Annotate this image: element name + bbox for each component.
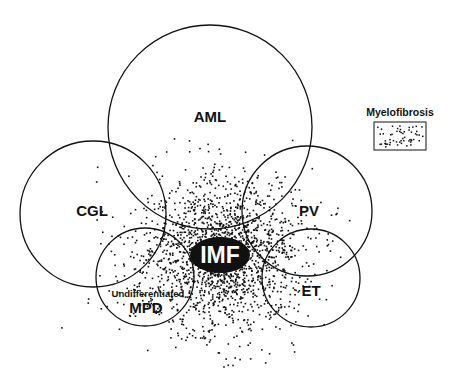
circle-aml xyxy=(108,25,312,229)
scatter-dot xyxy=(286,254,288,256)
scatter-dot xyxy=(252,253,254,255)
scatter-dot xyxy=(259,314,261,316)
scatter-dot xyxy=(219,301,221,303)
scatter-dot xyxy=(280,304,282,306)
scatter-dot xyxy=(205,209,207,211)
scatter-dot xyxy=(277,291,279,293)
scatter-dot xyxy=(219,169,221,171)
scatter-dot xyxy=(163,238,165,240)
legend-dot xyxy=(393,140,395,142)
scatter-dot xyxy=(167,280,169,282)
scatter-dot xyxy=(202,337,204,339)
scatter-dot xyxy=(195,186,197,188)
scatter-dot xyxy=(281,227,283,229)
scatter-dot xyxy=(210,274,212,276)
scatter-dot xyxy=(211,234,213,236)
scatter-dot xyxy=(264,303,266,305)
scatter-dot xyxy=(212,203,214,205)
scatter-dot xyxy=(290,325,292,327)
scatter-dot xyxy=(234,192,236,194)
scatter-dot xyxy=(238,181,240,183)
scatter-dot xyxy=(255,220,257,222)
scatter-dot xyxy=(228,343,230,345)
scatter-dot xyxy=(254,238,256,240)
scatter-dot xyxy=(183,219,185,221)
legend-dot xyxy=(387,144,389,146)
scatter-dot xyxy=(260,220,262,222)
legend-dot xyxy=(408,140,410,142)
scatter-dot xyxy=(284,176,286,178)
scatter-dot xyxy=(186,264,188,266)
scatter-dot xyxy=(231,230,233,232)
scatter-dot xyxy=(223,210,225,212)
scatter-dot xyxy=(212,287,214,289)
scatter-dot xyxy=(146,217,148,219)
scatter-dot xyxy=(143,262,145,264)
scatter-dot xyxy=(252,293,254,295)
scatter-dot xyxy=(259,267,261,269)
scatter-dot xyxy=(232,297,234,299)
scatter-dot xyxy=(326,299,328,301)
scatter-dot xyxy=(211,277,213,279)
scatter-dot xyxy=(142,271,144,273)
scatter-dot xyxy=(307,237,309,239)
scatter-dot xyxy=(217,280,219,282)
legend-dot xyxy=(415,133,417,135)
scatter-dot xyxy=(257,304,259,306)
scatter-dot xyxy=(240,269,242,271)
scatter-dot xyxy=(266,246,268,248)
scatter-dot xyxy=(235,185,237,187)
scatter-dot xyxy=(240,240,242,242)
scatter-dot xyxy=(209,192,211,194)
scatter-dot xyxy=(215,275,217,277)
scatter-dot xyxy=(298,250,300,252)
scatter-dot xyxy=(229,167,231,169)
scatter-dot xyxy=(214,221,216,223)
scatter-dot xyxy=(169,262,171,264)
scatter-dot xyxy=(233,200,235,202)
scatter-dot xyxy=(214,234,216,236)
scatter-dot xyxy=(222,232,224,234)
scatter-dot xyxy=(204,236,206,238)
scatter-dot xyxy=(136,240,138,242)
scatter-dot xyxy=(241,289,243,291)
scatter-dot xyxy=(281,195,283,197)
scatter-dot xyxy=(171,308,173,310)
legend-dot xyxy=(400,129,402,131)
scatter-dot xyxy=(150,255,152,257)
scatter-dot xyxy=(253,321,255,323)
scatter-dot xyxy=(191,230,193,232)
scatter-dot xyxy=(332,240,334,242)
scatter-dot xyxy=(218,230,220,232)
scatter-dot xyxy=(212,227,214,229)
scatter-dot xyxy=(267,264,269,266)
scatter-dot xyxy=(276,177,278,179)
scatter-dot xyxy=(294,294,296,296)
scatter-dot xyxy=(184,282,186,284)
scatter-dot xyxy=(230,274,232,276)
scatter-dot xyxy=(240,208,242,210)
scatter-dot xyxy=(266,250,268,252)
scatter-dot xyxy=(187,337,189,339)
scatter-dot xyxy=(187,279,189,281)
scatter-dot xyxy=(146,233,148,235)
scatter-dot xyxy=(248,187,250,189)
scatter-dot xyxy=(169,192,171,194)
scatter-dot xyxy=(256,230,258,232)
scatter-dot xyxy=(290,294,292,296)
scatter-dot xyxy=(224,306,226,308)
scatter-dot xyxy=(197,240,199,242)
scatter-dot xyxy=(208,204,210,206)
legend-dot xyxy=(408,129,410,131)
scatter-dot xyxy=(257,195,259,197)
scatter-dot xyxy=(200,239,202,241)
scatter-dot xyxy=(263,295,265,297)
scatter-dot xyxy=(152,165,154,167)
scatter-dot xyxy=(185,276,187,278)
scatter-dot xyxy=(278,188,280,190)
scatter-dot xyxy=(299,189,301,191)
scatter-dot xyxy=(242,311,244,313)
scatter-dot xyxy=(248,266,250,268)
scatter-dot xyxy=(160,246,162,248)
scatter-dot xyxy=(218,292,220,294)
